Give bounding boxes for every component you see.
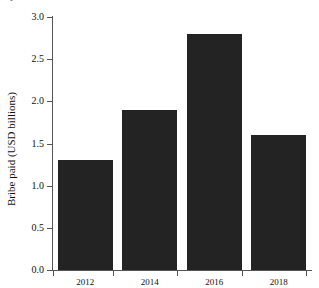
x-axis-tick	[53, 271, 54, 276]
y-axis-tick	[47, 270, 52, 271]
x-axis-tick-label: 2014	[141, 277, 159, 287]
x-axis-tick	[306, 271, 307, 276]
bar-2016	[187, 34, 242, 270]
y-axis-tick-label: 3.0	[32, 12, 45, 22]
x-axis-line	[52, 270, 312, 271]
plot-area	[53, 17, 311, 270]
bar-2014	[122, 110, 177, 270]
figure-caption-fragment: B y	[2, 0, 302, 2]
y-axis-tick-label: 0.0	[32, 265, 45, 275]
y-axis-tick	[47, 144, 52, 145]
y-axis-tick-label: 0.5	[32, 223, 45, 233]
y-axis-tick-label: 1.5	[32, 139, 45, 149]
x-axis-tick-label: 2012	[76, 277, 94, 287]
y-axis-tick-label: 2.0	[32, 96, 45, 106]
x-axis-tick	[177, 271, 178, 276]
y-axis-tick	[47, 17, 52, 18]
x-axis-tick-label: 2018	[270, 277, 288, 287]
bar-2018	[251, 135, 306, 270]
x-axis-tick	[242, 271, 243, 276]
y-axis-tick	[47, 186, 52, 187]
x-axis-tick-label: 2016	[205, 277, 223, 287]
bar-2012	[58, 160, 113, 270]
y-axis-tick	[47, 101, 52, 102]
y-axis-tick	[47, 228, 52, 229]
y-axis-tick-label: 1.0	[32, 181, 45, 191]
y-axis-title: Bribe paid (USD billions)	[5, 64, 17, 234]
x-axis-tick	[113, 271, 114, 276]
y-axis-tick	[47, 59, 52, 60]
y-axis-tick-label: 2.5	[32, 54, 45, 64]
chart-figure: B y 0.00.51.01.52.02.53.0 20122014201620…	[0, 0, 319, 288]
